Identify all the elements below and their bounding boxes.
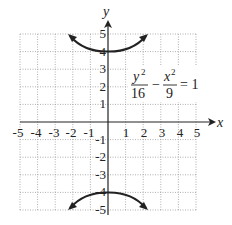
x-tick: 5 bbox=[194, 125, 201, 140]
eq-term2-num: x bbox=[163, 69, 171, 84]
x-tick: 1 bbox=[123, 125, 130, 140]
eq-minus: − bbox=[152, 77, 160, 92]
equation: y 2 16 − x 2 9 = 1 bbox=[128, 66, 204, 102]
x-tick: -3 bbox=[49, 125, 60, 140]
x-tick: 2 bbox=[141, 125, 148, 140]
x-tick: -4 bbox=[31, 125, 42, 140]
y-tick: -2 bbox=[95, 149, 106, 164]
eq-term1-den: 16 bbox=[131, 86, 145, 101]
x-tick-labels: -5 -4 -3 -2 -1 1 2 3 4 5 bbox=[13, 125, 201, 140]
x-tick: -1 bbox=[84, 125, 95, 140]
y-tick: -5 bbox=[95, 202, 106, 217]
y-tick: 5 bbox=[100, 26, 107, 41]
y-tick: 1 bbox=[100, 96, 107, 111]
eq-term2-exp: 2 bbox=[171, 67, 176, 77]
y-tick: -1 bbox=[95, 132, 106, 147]
eq-term2-den: 9 bbox=[166, 86, 173, 101]
x-tick: -2 bbox=[66, 125, 77, 140]
y-tick: -3 bbox=[95, 167, 106, 182]
hyperbola-graph: x y -5 -4 -3 -2 -1 1 2 3 4 5 5 4 3 2 1 -… bbox=[0, 0, 232, 225]
x-tick: 4 bbox=[177, 125, 184, 140]
y-tick: 3 bbox=[100, 61, 107, 76]
eq-rhs: = 1 bbox=[180, 77, 198, 92]
x-tick: 3 bbox=[159, 125, 166, 140]
eq-term1-num: y bbox=[131, 69, 140, 84]
x-axis-label: x bbox=[216, 115, 224, 130]
y-tick: 2 bbox=[100, 79, 107, 94]
eq-term1-exp: 2 bbox=[141, 67, 146, 77]
x-tick: -5 bbox=[13, 125, 24, 140]
y-axis-label: y bbox=[101, 4, 110, 19]
